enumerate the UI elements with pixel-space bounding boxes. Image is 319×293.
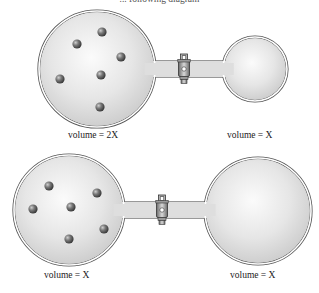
top-right-volume-label: volume = X	[227, 130, 272, 140]
gas-particle	[116, 52, 125, 61]
setup-top	[39, 11, 287, 127]
gas-particle	[92, 188, 101, 197]
gas-particle	[66, 202, 75, 211]
gas-particle	[95, 102, 104, 111]
bottom-left-volume-label: volume = X	[44, 270, 89, 280]
gas-particle	[96, 70, 105, 79]
gas-particle	[97, 27, 106, 36]
stopcock-valve-icon	[178, 54, 190, 84]
gas-particle	[64, 234, 73, 243]
gas-particle	[99, 224, 108, 233]
gas-particle	[72, 39, 81, 48]
setup-bottom	[14, 155, 311, 265]
gas-particle	[28, 204, 37, 213]
right-flask	[206, 159, 310, 263]
bottom-right-volume-label: volume = X	[230, 270, 275, 280]
gas-particle	[55, 74, 64, 83]
gas-particle	[44, 181, 53, 190]
stopcock-valve-icon	[156, 195, 168, 225]
top-left-volume-label: volume = 2X	[68, 130, 118, 140]
gas-flasks-diagram	[0, 0, 319, 293]
